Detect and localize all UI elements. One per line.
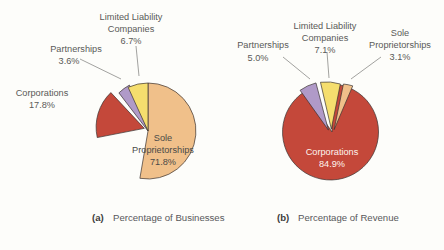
caption-a-marker: (a) bbox=[92, 212, 104, 223]
label-a-sole-line2: Proprietorships bbox=[132, 145, 194, 155]
label-b-corporations-line1: Corporations bbox=[306, 147, 359, 157]
label-a-partnerships-line1: Partnerships bbox=[50, 44, 102, 54]
label-a-sole-line1: Sole bbox=[154, 133, 172, 143]
label-b-llc-line2: Companies bbox=[302, 33, 349, 43]
label-a-sole-value: 71.8% bbox=[150, 157, 176, 167]
label-b-partnerships-line1: Partnerships bbox=[237, 40, 289, 50]
label-a-partnerships-value: 3.6% bbox=[59, 56, 80, 66]
label-b-partnerships-value: 5.0% bbox=[248, 53, 269, 63]
label-b-sole-value: 3.1% bbox=[390, 52, 411, 62]
caption-b-marker: (b) bbox=[277, 212, 289, 223]
caption-b-text: Percentage of Revenue bbox=[298, 212, 399, 223]
label-b-sole-line1: Sole bbox=[391, 28, 409, 38]
label-b-sole-line2: Proprietorships bbox=[369, 40, 431, 50]
label-a-corporations-value: 17.8% bbox=[29, 100, 55, 110]
caption-a-text: Percentage of Businesses bbox=[113, 212, 225, 223]
label-a-llc-line2: Companies bbox=[108, 24, 155, 34]
label-b-llc-value: 7.1% bbox=[315, 45, 336, 55]
label-b-llc-line1: Limited Liability bbox=[294, 21, 357, 31]
label-a-llc-line1: Limited Liability bbox=[100, 12, 163, 22]
label-b-corporations-value: 84.9% bbox=[319, 159, 345, 169]
label-a-llc-value: 6.7% bbox=[121, 36, 142, 46]
figure-canvas: Limited Liability Companies 6.7% Partner… bbox=[0, 0, 444, 250]
label-a-corporations-line1: Corporations bbox=[16, 88, 69, 98]
pie-chart-figure: Limited Liability Companies 6.7% Partner… bbox=[0, 0, 444, 250]
